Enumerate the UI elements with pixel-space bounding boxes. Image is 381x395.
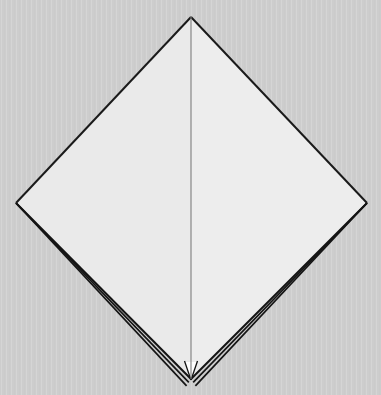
origami-model: [0, 0, 381, 395]
right-face: [191, 17, 367, 379]
scene-canvas: [0, 0, 381, 395]
left-face: [16, 17, 191, 379]
